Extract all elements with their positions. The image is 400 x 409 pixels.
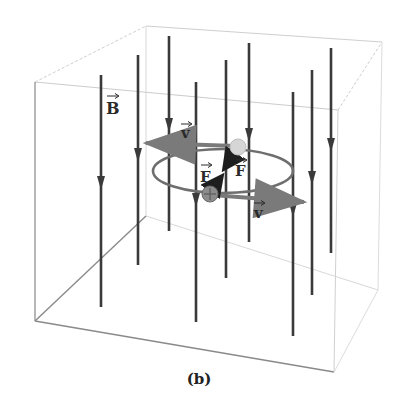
label-velocity-top: v — [180, 122, 192, 143]
box-back-bottom-edge — [146, 216, 378, 290]
force-arrow-lower — [213, 176, 222, 188]
velocity-arrow-top — [146, 143, 236, 146]
field-arrowhead-icon — [289, 203, 297, 217]
field-arrowhead-icon — [97, 176, 105, 190]
field-arrowhead-icon — [308, 171, 316, 185]
positive-charge — [202, 186, 218, 202]
label-b-field: B — [106, 94, 120, 119]
svg-text:B: B — [106, 99, 120, 118]
box-back-right-edge — [378, 42, 382, 290]
svg-text:F: F — [200, 168, 211, 186]
label-force-right: F — [235, 158, 247, 181]
label-velocity-bottom: v — [253, 201, 265, 223]
box-right-bottom-edge — [334, 290, 378, 372]
box-front-bottom-edge — [35, 321, 334, 372]
field-arrowhead-icon — [134, 148, 142, 162]
svg-text:v: v — [253, 204, 264, 222]
magnetic-field-diagram: B v v F F (b) — [0, 0, 400, 409]
box-left-top-edge — [35, 26, 146, 82]
circular-orbit — [153, 149, 293, 193]
svg-text:F: F — [235, 162, 246, 180]
box-left-bottom-edge — [35, 216, 146, 321]
field-arrowhead-icon — [165, 118, 173, 132]
ghost-charge — [230, 139, 246, 155]
box-right-top-edge — [338, 42, 382, 110]
box-front-right-edge — [334, 110, 338, 372]
field-arrowhead-icon — [327, 138, 335, 152]
box-back-top-edge — [146, 26, 382, 42]
field-arrowhead-icon — [245, 128, 253, 142]
label-force-left: F — [200, 163, 212, 187]
svg-text:v: v — [180, 124, 191, 142]
field-arrowhead-icon — [192, 193, 200, 207]
figure-caption: (b) — [187, 370, 212, 388]
